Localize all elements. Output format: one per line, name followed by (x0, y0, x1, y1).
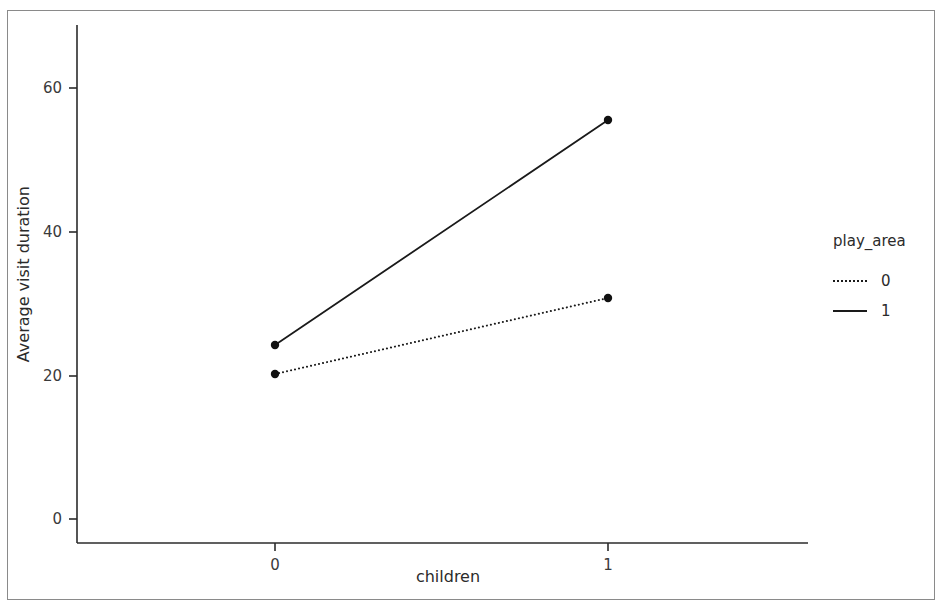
legend-key-dotted-icon (833, 274, 867, 288)
plot-canvas (0, 0, 945, 616)
x-tick-label-1: 1 (588, 556, 628, 574)
data-point-play-area-0-children-1 (604, 294, 612, 302)
y-axis-title: Average visit duration (14, 186, 38, 362)
legend-item-label-1: 1 (881, 302, 891, 320)
legend-title: play_area (833, 232, 929, 250)
y-tick-label-0: 0 (24, 510, 62, 528)
chart-figure: 0 20 40 60 0 1 Average visit duration ch… (0, 0, 945, 616)
legend-item-1[interactable]: 1 (833, 296, 929, 326)
legend-item-label-0: 0 (881, 272, 891, 290)
data-point-play-area-1-children-1 (604, 116, 612, 124)
x-axis-title: children (348, 567, 548, 586)
y-tick-label-20: 20 (24, 367, 62, 385)
data-point-play-area-1-children-0 (271, 341, 279, 349)
legend: play_area 0 1 (833, 232, 929, 326)
x-tick-label-0: 0 (255, 556, 295, 574)
series-line-play-area-1 (275, 120, 608, 345)
legend-key-solid-icon (833, 304, 867, 318)
data-point-play-area-0-children-0 (271, 370, 279, 378)
y-tick-label-60: 60 (24, 79, 62, 97)
legend-item-0[interactable]: 0 (833, 266, 929, 296)
series-line-play-area-0 (275, 298, 608, 374)
